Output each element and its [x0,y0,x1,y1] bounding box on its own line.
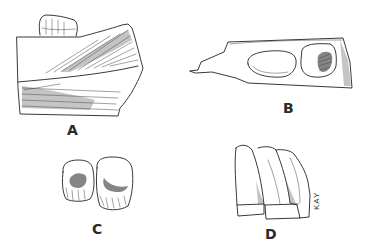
specimen-figure: A B C D [0,0,368,250]
panel-d-drawing [0,0,368,250]
artist-signature: KAY [312,192,321,210]
panel-label-d: D [265,227,277,241]
